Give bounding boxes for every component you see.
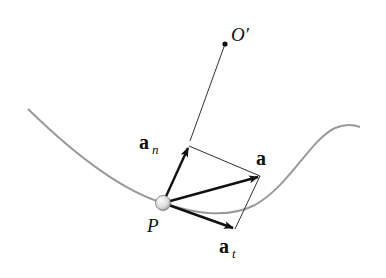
label-p: P bbox=[146, 215, 159, 236]
construction-line-an-to-a bbox=[189, 146, 260, 176]
construction-line-at-to-a bbox=[235, 176, 260, 229]
label-a-n-subscript: n bbox=[152, 142, 159, 157]
tangential-acceleration-vector bbox=[163, 203, 233, 228]
label-a-n: a bbox=[139, 131, 149, 153]
label-a: a bbox=[256, 147, 266, 169]
center-of-curvature-point bbox=[222, 41, 227, 46]
label-o-prime: O′ bbox=[231, 24, 250, 45]
particle-ball bbox=[156, 196, 171, 211]
label-a-t-subscript: t bbox=[232, 246, 236, 261]
normal-acceleration-vector bbox=[163, 148, 188, 203]
acceleration-vector bbox=[163, 177, 258, 203]
acceleration-diagram: O′ P a a n a t bbox=[0, 0, 386, 278]
particle-path bbox=[28, 109, 360, 213]
radius-of-curvature-line bbox=[190, 44, 225, 141]
label-a-t: a bbox=[219, 235, 229, 257]
